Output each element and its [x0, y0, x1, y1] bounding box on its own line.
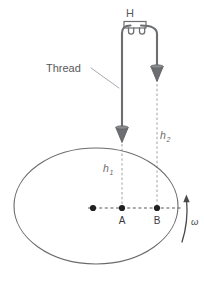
- angular-velocity-label: ω: [191, 216, 199, 227]
- thread-label: Thread: [46, 62, 81, 74]
- thread-left-strand: [122, 26, 131, 131]
- point-b-dot: [154, 205, 160, 211]
- thread-right-strand: [141, 26, 157, 70]
- point-a-label: A: [119, 215, 126, 226]
- thread-leader-line: [91, 68, 119, 88]
- center-dot: [90, 205, 96, 211]
- plumb-bob-left: [116, 126, 128, 143]
- support-label-H: H: [126, 7, 134, 19]
- rotating-disc-outline: [14, 148, 178, 264]
- height-label-h2-subscript: 2: [166, 136, 171, 143]
- hook-left-icon: [129, 28, 134, 34]
- height-label-h1-subscript: 1: [110, 169, 114, 176]
- rotation-arrow-head-icon: [183, 195, 189, 203]
- rotation-arrow-curve: [182, 200, 187, 242]
- plumb-bob-left-cone: [116, 128, 128, 143]
- point-a-dot: [119, 205, 125, 211]
- point-b-label: B: [154, 215, 161, 226]
- physics-diagram-figure: H Thread h 1 h 2 A B ω: [0, 0, 204, 282]
- plumb-bob-right-cone: [151, 67, 163, 82]
- height-label-h2: h: [160, 129, 166, 141]
- plumb-bob-left-cap: [116, 126, 128, 129]
- plumb-bob-right-cap: [151, 65, 163, 68]
- height-label-h1: h: [103, 162, 109, 174]
- diagram-canvas: H Thread h 1 h 2 A B ω: [0, 0, 204, 282]
- hook-right-icon: [140, 28, 145, 34]
- plumb-bob-right: [151, 65, 163, 82]
